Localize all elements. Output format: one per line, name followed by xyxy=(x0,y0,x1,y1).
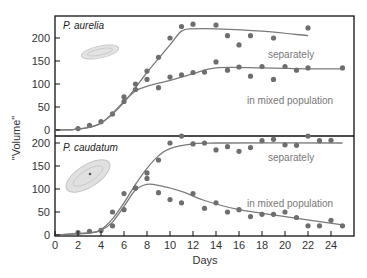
data-point xyxy=(225,33,230,38)
data-point xyxy=(317,138,322,143)
data-point xyxy=(225,144,230,149)
data-point xyxy=(167,197,172,202)
data-point xyxy=(236,42,241,47)
label-aurelia-mixed: in mixed population xyxy=(247,95,333,106)
svg-text:0: 0 xyxy=(52,239,58,251)
svg-text:50: 50 xyxy=(38,101,50,113)
data-point xyxy=(294,68,299,73)
data-point xyxy=(259,64,264,69)
data-point xyxy=(328,138,333,143)
data-point xyxy=(179,134,184,139)
data-point xyxy=(213,147,218,152)
data-point xyxy=(259,138,264,143)
data-point xyxy=(282,142,287,147)
data-point xyxy=(156,55,161,60)
data-point xyxy=(328,218,333,223)
data-point xyxy=(305,65,310,70)
data-point xyxy=(305,134,310,139)
data-point xyxy=(121,207,126,212)
data-point xyxy=(121,94,126,99)
svg-text:0: 0 xyxy=(44,229,50,241)
svg-text:24: 24 xyxy=(325,239,337,251)
data-point xyxy=(167,140,172,145)
data-point xyxy=(110,223,115,228)
data-point xyxy=(248,74,253,79)
svg-text:4: 4 xyxy=(98,239,104,251)
paramecium-aurelia-icon xyxy=(80,42,120,62)
data-point xyxy=(271,212,276,217)
svg-text:8: 8 xyxy=(144,239,150,251)
data-point xyxy=(225,68,230,73)
svg-text:150: 150 xyxy=(32,160,50,172)
data-point xyxy=(121,191,126,196)
y-axis-ticks-bottom: 050100150200 xyxy=(32,137,60,241)
data-point xyxy=(133,81,138,86)
svg-text:0: 0 xyxy=(44,124,50,136)
data-point xyxy=(190,141,195,146)
data-point xyxy=(167,75,172,80)
data-point xyxy=(236,64,241,69)
data-point xyxy=(271,35,276,40)
label-caudatum-mixed: in mixed population xyxy=(247,198,333,209)
svg-text:12: 12 xyxy=(187,239,199,251)
plot-p-aurelia xyxy=(55,22,345,132)
label-caudatum-separately: separately xyxy=(268,152,314,163)
svg-text:2: 2 xyxy=(75,239,81,251)
svg-text:14: 14 xyxy=(210,239,222,251)
panel-title-aurelia: P. aurelia xyxy=(63,20,104,31)
data-point xyxy=(248,145,253,150)
svg-text:200: 200 xyxy=(32,137,50,149)
data-point xyxy=(121,99,126,104)
population-growth-chart: P. aurelia P. caudatum separately in mix… xyxy=(0,0,367,278)
data-point xyxy=(202,206,207,211)
data-point xyxy=(179,24,184,29)
x-axis-label: Days xyxy=(192,254,218,266)
svg-text:100: 100 xyxy=(32,78,50,90)
data-point xyxy=(156,190,161,195)
data-point xyxy=(133,185,138,190)
svg-text:10: 10 xyxy=(164,239,176,251)
svg-text:20: 20 xyxy=(279,239,291,251)
svg-text:16: 16 xyxy=(233,239,245,251)
data-point xyxy=(271,77,276,82)
svg-text:150: 150 xyxy=(32,55,50,67)
data-point xyxy=(294,215,299,220)
data-point xyxy=(202,69,207,74)
data-point xyxy=(305,223,310,228)
data-point xyxy=(248,214,253,219)
svg-text:18: 18 xyxy=(256,239,268,251)
data-point xyxy=(133,87,138,92)
data-point xyxy=(213,200,218,205)
data-point xyxy=(236,207,241,212)
data-point xyxy=(179,72,184,77)
y-axis-ticks-top: 050100150200 xyxy=(32,32,60,136)
data-point xyxy=(317,223,322,228)
data-point xyxy=(144,69,149,74)
data-point xyxy=(202,140,207,145)
data-point xyxy=(144,176,149,181)
svg-text:50: 50 xyxy=(38,206,50,218)
data-point xyxy=(305,25,310,30)
panel-title-caudatum: P. caudatum xyxy=(63,142,118,153)
svg-text:200: 200 xyxy=(32,32,50,44)
svg-text:22: 22 xyxy=(302,239,314,251)
data-point xyxy=(213,59,218,64)
data-point xyxy=(144,170,149,175)
x-axis-ticks: 024681012141618202224 xyxy=(52,231,337,251)
data-point xyxy=(271,137,276,142)
data-point xyxy=(156,157,161,162)
data-point xyxy=(190,191,195,196)
data-point xyxy=(225,209,230,214)
data-point xyxy=(282,209,287,214)
paramecium-caudatum-icon xyxy=(61,153,115,198)
svg-text:6: 6 xyxy=(121,239,127,251)
data-point xyxy=(340,223,345,228)
data-point xyxy=(179,200,184,205)
data-point xyxy=(259,212,264,217)
data-point xyxy=(110,209,115,214)
data-point xyxy=(190,70,195,75)
data-point xyxy=(294,143,299,148)
data-point xyxy=(213,23,218,28)
fit-line xyxy=(55,29,308,130)
y-axis-label: "Volume" xyxy=(10,116,22,161)
